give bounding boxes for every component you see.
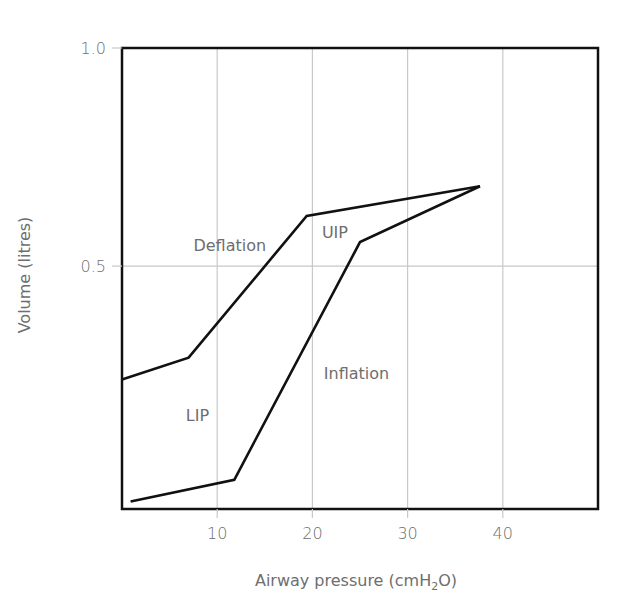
pressure-volume-chart: DeflationUIPInflationLIP 102030400.51.0 … xyxy=(0,0,627,614)
grid-lines xyxy=(122,48,598,509)
x-tick-label: 20 xyxy=(302,524,322,543)
y-tick-label: 0.5 xyxy=(81,257,106,276)
annotation-lip: LIP xyxy=(186,406,210,425)
curves xyxy=(122,186,480,501)
axis-ticks: 102030400.51.0 xyxy=(81,39,513,543)
annotation-deflation: Deflation xyxy=(193,236,266,255)
y-tick-label: 1.0 xyxy=(81,39,106,58)
annotation-inflation: Inflation xyxy=(324,364,389,383)
annotation-uip: UIP xyxy=(322,223,348,242)
x-tick-label: 30 xyxy=(397,524,417,543)
x-tick-label: 40 xyxy=(493,524,513,543)
plot-frame xyxy=(122,48,598,509)
x-axis-label: Airway pressure (cmH2O) xyxy=(255,571,457,593)
series-deflation xyxy=(122,186,480,379)
series-inflation xyxy=(131,186,480,501)
x-tick-label: 10 xyxy=(207,524,227,543)
y-axis-label: Volume (litres) xyxy=(15,217,34,334)
